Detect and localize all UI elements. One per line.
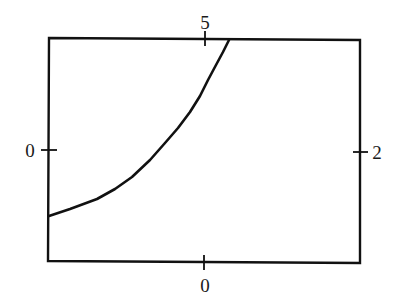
left-tick-label: 0 bbox=[25, 140, 35, 161]
top-tick-label: 5 bbox=[200, 12, 210, 33]
plot-frame bbox=[48, 38, 360, 263]
data-curve bbox=[49, 40, 229, 216]
right-tick-label: 2 bbox=[372, 142, 382, 163]
bottom-tick-label: 0 bbox=[200, 275, 210, 296]
chart-plot: 5 0 0 2 bbox=[0, 0, 402, 302]
